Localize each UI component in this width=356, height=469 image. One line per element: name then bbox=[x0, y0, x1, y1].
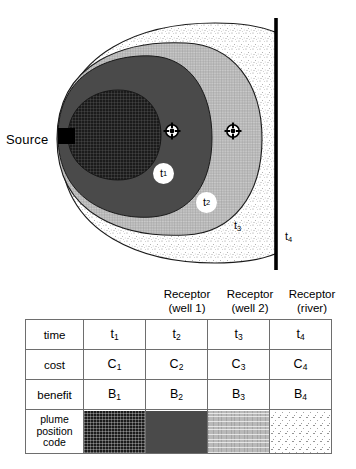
source-label: Source bbox=[6, 132, 48, 147]
column-header-receptor-river-line2: (river) bbox=[272, 302, 352, 316]
row-label-plume-position-code: plume position code bbox=[26, 410, 84, 454]
cell-time-2: t2 bbox=[146, 320, 208, 350]
plume-diagram: Source t1 t2 t3 t4 bbox=[0, 0, 356, 288]
cell-benefit-2: B2 bbox=[146, 380, 208, 410]
column-header-receptor-well-2-line1: Receptor bbox=[227, 288, 274, 300]
swatch-light-crosshatch bbox=[208, 411, 269, 453]
cell-benefit-2-sub: 2 bbox=[178, 392, 183, 402]
plume-svg bbox=[0, 0, 356, 288]
figure-root: Source t1 t2 t3 t4 Receptor (well 1) Rec… bbox=[0, 0, 356, 469]
plume-label-t2: t2 bbox=[196, 192, 217, 213]
cell-cost-1: C1 bbox=[84, 350, 146, 380]
cell-cost-4-text: C bbox=[294, 357, 303, 371]
plume-label-t1-sub: 1 bbox=[163, 170, 167, 177]
table-row-cost: cost C1 C2 C3 C4 bbox=[26, 350, 332, 380]
plume-label-t4-sub: 4 bbox=[288, 235, 292, 244]
column-header-receptor-well-1-line1: Receptor bbox=[164, 288, 211, 300]
cell-cost-2-sub: 2 bbox=[179, 362, 184, 372]
plume-label-t1: t1 bbox=[153, 163, 174, 184]
cell-cost-4-sub: 4 bbox=[303, 362, 308, 372]
table-row-benefit: benefit B1 B2 B3 B4 bbox=[26, 380, 332, 410]
cell-cost-1-text: C bbox=[108, 357, 117, 371]
cell-benefit-4: B4 bbox=[270, 380, 332, 410]
cell-time-1: t1 bbox=[84, 320, 146, 350]
row-label-benefit: benefit bbox=[26, 380, 84, 410]
table-row-time: time t1 t2 t3 t4 bbox=[26, 320, 332, 350]
cell-cost-3-text: C bbox=[232, 357, 241, 371]
cell-time-3-sub: 3 bbox=[238, 332, 243, 342]
cell-benefit-4-sub: 4 bbox=[302, 392, 307, 402]
swatch-cell-3 bbox=[208, 410, 270, 454]
plume-label-t4: t4 bbox=[285, 231, 292, 244]
source-marker-icon bbox=[58, 128, 75, 144]
swatch-cell-4 bbox=[270, 410, 332, 454]
cell-cost-2: C2 bbox=[146, 350, 208, 380]
plume-zone-source bbox=[68, 90, 161, 180]
swatch-solid-dark-gray bbox=[146, 411, 207, 453]
cell-cost-3: C3 bbox=[208, 350, 270, 380]
cost-benefit-table-section: Receptor (well 1) Receptor (well 2) Rece… bbox=[0, 288, 356, 469]
cell-benefit-3: B3 bbox=[208, 380, 270, 410]
cell-benefit-3-sub: 3 bbox=[240, 392, 245, 402]
cell-cost-2-text: C bbox=[170, 357, 179, 371]
cell-time-2-sub: 2 bbox=[176, 332, 181, 342]
row-label-cost: cost bbox=[26, 350, 84, 380]
cell-cost-3-sub: 3 bbox=[241, 362, 246, 372]
cell-time-4-sub: 4 bbox=[300, 332, 305, 342]
cell-benefit-1: B1 bbox=[84, 380, 146, 410]
plume-cost-benefit-table: time t1 t2 t3 t4 cost C1 C2 C3 C4 benefi… bbox=[25, 319, 332, 454]
plume-label-t3-sub: 3 bbox=[237, 224, 241, 233]
column-header-receptor-river-line1: Receptor bbox=[289, 288, 336, 300]
table-row-plume-position-code: plume position code bbox=[26, 410, 332, 454]
row-label-time: time bbox=[26, 320, 84, 350]
swatch-cell-2 bbox=[146, 410, 208, 454]
cell-time-4: t4 bbox=[270, 320, 332, 350]
swatch-white-stipple bbox=[270, 411, 331, 453]
column-header-receptor-river: Receptor (river) bbox=[272, 288, 352, 315]
row-label-plume-line3: code bbox=[26, 437, 83, 449]
table-column-headers: Receptor (well 1) Receptor (well 2) Rece… bbox=[0, 288, 356, 318]
cell-benefit-1-sub: 1 bbox=[116, 392, 121, 402]
cell-cost-4: C4 bbox=[270, 350, 332, 380]
cell-time-1-sub: 1 bbox=[114, 332, 119, 342]
swatch-dark-crosshatch bbox=[84, 411, 145, 453]
cell-cost-1-sub: 1 bbox=[117, 362, 122, 372]
swatch-cell-1 bbox=[84, 410, 146, 454]
cell-time-3: t3 bbox=[208, 320, 270, 350]
plume-label-t2-sub: 2 bbox=[206, 199, 210, 206]
plume-label-t3: t3 bbox=[234, 220, 241, 233]
